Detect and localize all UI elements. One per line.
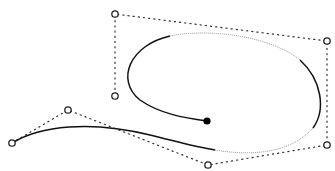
- curve-solid-right: [300, 60, 320, 128]
- control-point-5[interactable]: [112, 11, 118, 17]
- control-point-1[interactable]: [65, 107, 71, 113]
- control-point-2[interactable]: [205, 162, 211, 168]
- control-point-0[interactable]: [9, 140, 15, 146]
- control-point-6[interactable]: [112, 93, 118, 99]
- curve-solid-start: [12, 126, 215, 150]
- control-point-4[interactable]: [324, 38, 330, 44]
- spline-diagram: [0, 0, 335, 171]
- curve-solid-left: [128, 36, 207, 121]
- control-points[interactable]: [9, 11, 330, 168]
- curve-faint-bottom: [215, 128, 313, 153]
- curve-end-point[interactable]: [203, 117, 210, 124]
- curve-faint-top: [170, 33, 300, 60]
- spline-curve: [12, 33, 320, 153]
- control-point-3[interactable]: [324, 142, 330, 148]
